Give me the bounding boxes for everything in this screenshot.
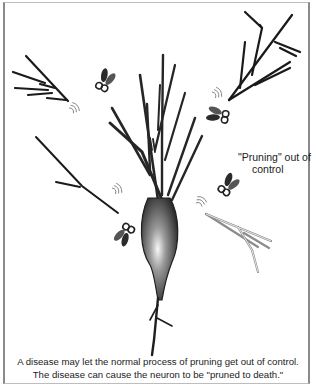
- scissors-icon: [205, 104, 230, 125]
- cut-branch-2: [229, 12, 300, 100]
- pruning-annotation: "Pruning" out of control: [238, 151, 316, 175]
- cut-branch-1: [13, 56, 68, 101]
- annotation-line-1: "Pruning" out of: [238, 151, 316, 163]
- caption-line-2: The disease can cause the neuron to be "…: [6, 368, 310, 381]
- axon: [150, 298, 172, 355]
- snip-mark-icon: [111, 182, 123, 196]
- snip-mark-icon: [211, 86, 223, 100]
- snip-mark-icon: [194, 195, 208, 207]
- snip-mark-icon: [68, 101, 81, 115]
- soma: [141, 198, 177, 300]
- annotation-line-2: control: [238, 163, 316, 175]
- neuron-illustration: [0, 0, 316, 387]
- scissors-icon: [94, 66, 119, 94]
- scissors-icon: [111, 221, 137, 249]
- figure-caption: A disease may let the normal process of …: [6, 355, 310, 381]
- dendrite-tree: [110, 55, 202, 200]
- caption-line-1: A disease may let the normal process of …: [6, 355, 310, 368]
- cut-branch-3: [36, 137, 118, 213]
- cut-branch-4: [206, 214, 271, 272]
